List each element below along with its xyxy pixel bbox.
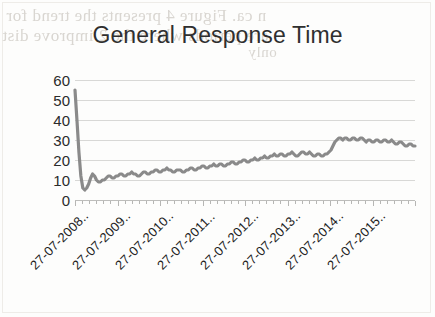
y-axis-tick-60: 60 [53, 72, 70, 89]
x-axis-tick-labels: 27-07-2008..27-07-2009..27-07-2010..27-0… [0, 200, 435, 317]
y-axis-tick-50: 50 [53, 92, 70, 109]
y-axis-tick-30: 30 [53, 132, 70, 149]
chart-plot-area: 0102030405060 27-07-2008..27-07-2009..27… [0, 0, 435, 317]
y-axis-tick-40: 40 [53, 112, 70, 129]
y-axis-tick-10: 10 [53, 172, 70, 189]
response-time-line-series [75, 80, 415, 200]
y-axis-tick-20: 20 [53, 152, 70, 169]
y-axis-tick-labels: 0102030405060 [34, 70, 70, 204]
